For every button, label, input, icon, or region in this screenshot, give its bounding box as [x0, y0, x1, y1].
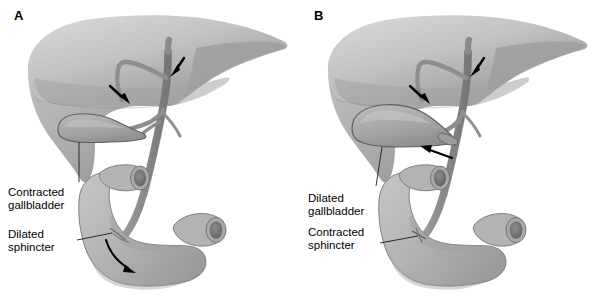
liver	[28, 15, 287, 182]
label-contracted-gallbladder: Contracted gallbladder	[8, 186, 64, 211]
right-hepatic-duct	[168, 40, 169, 52]
duodenum-distal-lumen-inner	[510, 221, 523, 239]
gallbladder-body	[352, 105, 454, 147]
panel-a-letter: A	[14, 9, 23, 22]
duct-accessory-branch	[163, 113, 180, 136]
duodenum-proximal-lumen-inner	[134, 170, 146, 187]
label-dilated-sphincter: Dilated sphincter	[8, 228, 55, 253]
duodenum-proximal-lumen-inner	[434, 170, 446, 187]
label-dilated-gallbladder: Dilated gallbladder	[308, 192, 364, 217]
figure-root: A Contracted gallbladder Dilated sphinct…	[0, 0, 600, 297]
panel-b-letter: B	[314, 9, 323, 22]
duct-accessory-branch	[463, 113, 480, 136]
gallbladder-dilated	[352, 105, 458, 147]
liver-left-lobe-tip	[487, 41, 585, 90]
panel-a: A Contracted gallbladder Dilated sphinct…	[0, 0, 300, 297]
duodenum	[79, 165, 226, 290]
duodenum	[379, 165, 526, 290]
liver	[328, 15, 587, 182]
liver-left-lobe-tip	[187, 41, 285, 90]
right-hepatic-duct	[468, 40, 469, 52]
arrow-cystic-duct-filling	[420, 145, 452, 158]
panel-b: B Dilated gallbladder Contracted sphinct…	[300, 0, 600, 297]
duodenum-distal-lumen-inner	[210, 221, 223, 239]
panel-b-illustration	[300, 0, 600, 297]
label-contracted-sphincter: Contracted sphincter	[308, 226, 364, 251]
